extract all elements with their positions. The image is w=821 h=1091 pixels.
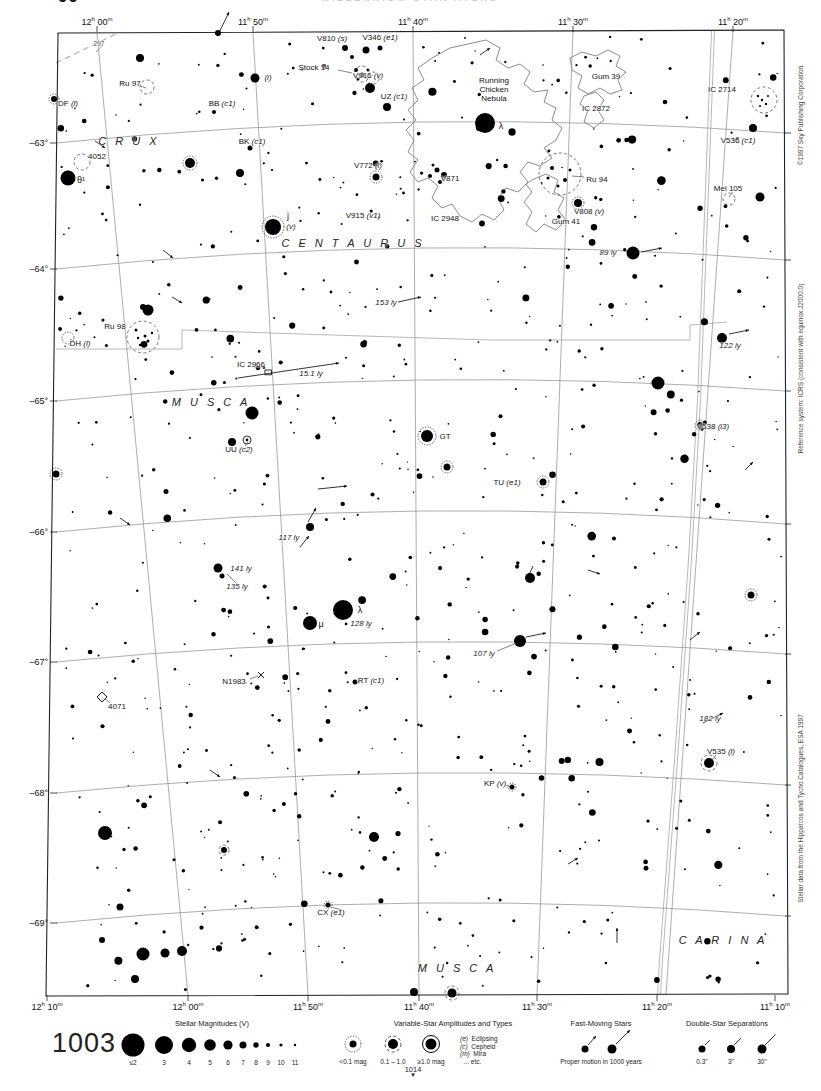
down-arrow-icon: ▼ bbox=[405, 1074, 422, 1077]
object-label: 89 ly bbox=[600, 249, 617, 257]
circled-dot-center bbox=[246, 439, 249, 442]
star bbox=[574, 199, 582, 207]
object-label: UU (c2) bbox=[225, 446, 253, 454]
legend-magnitude-label: 5 bbox=[208, 1059, 212, 1066]
legend-separation-label: 30" bbox=[757, 1058, 767, 1065]
nebula-name-line: Chicken bbox=[480, 86, 509, 94]
dec-gridline bbox=[56, 248, 786, 269]
ra-label-bottom: 11h 20m bbox=[642, 1001, 672, 1012]
label-leader-line bbox=[497, 643, 517, 651]
object-label: DH (l) bbox=[70, 340, 91, 348]
legend-magnitude-dot bbox=[294, 1044, 296, 1046]
legend-magnitude-dot bbox=[279, 1043, 282, 1046]
object-label: Stock 14 bbox=[298, 64, 329, 72]
star bbox=[303, 616, 317, 630]
object-label: RT (c1) bbox=[358, 677, 384, 685]
legend-separation-label: 3" bbox=[728, 1058, 734, 1065]
object-label: KP (v) bbox=[484, 780, 506, 788]
object-label: 117 ly bbox=[279, 534, 300, 542]
object-label: Ru 98 bbox=[104, 323, 125, 331]
legend-fast-dot bbox=[582, 1046, 589, 1053]
dec-label: –67° bbox=[14, 657, 48, 667]
proper-motion-arrow bbox=[398, 297, 421, 302]
star bbox=[757, 95, 759, 97]
dec-label: –66° bbox=[14, 527, 48, 537]
arrowhead bbox=[217, 774, 220, 777]
constellation-name: C E N T A U R U S bbox=[281, 237, 424, 249]
object-label: Gum 41 bbox=[552, 218, 580, 226]
object-label: 4071 bbox=[108, 703, 126, 711]
arrowhead bbox=[487, 48, 490, 51]
star bbox=[410, 988, 418, 996]
legend-magnitude-dot bbox=[204, 1039, 216, 1051]
running-head: MILLENNIUM STAR ATLAS bbox=[321, 0, 498, 3]
object-label: V808 (v) bbox=[574, 208, 604, 216]
constellation-name: M U S C A bbox=[172, 396, 251, 408]
arrowhead bbox=[597, 572, 600, 575]
object-label: 141 ly bbox=[230, 565, 251, 573]
dec-gridline bbox=[56, 122, 786, 143]
arrowhead bbox=[127, 522, 130, 525]
star bbox=[767, 95, 769, 97]
dec-label: –69° bbox=[14, 918, 48, 928]
star bbox=[448, 989, 457, 998]
legend-variable-label: ≥1.0 mag bbox=[417, 1058, 444, 1065]
legend-double-title: Double-Star Separations bbox=[686, 1019, 768, 1028]
star bbox=[749, 124, 757, 132]
ra-label-top: 11h 50m bbox=[238, 16, 268, 27]
legend-magnitude-label: 9 bbox=[266, 1059, 270, 1066]
star bbox=[137, 337, 139, 339]
constellation-name: C R U X bbox=[98, 135, 159, 147]
star bbox=[99, 937, 105, 943]
star bbox=[475, 113, 495, 133]
object-label: V915 (v1) bbox=[346, 212, 381, 220]
star-atlas-page: 99 MILLENNIUM STAR ATLAS 12h 00m11h 50m1… bbox=[0, 0, 821, 1091]
star bbox=[432, 164, 435, 167]
object-label: 182 ly bbox=[699, 715, 720, 723]
star bbox=[761, 99, 763, 101]
star bbox=[144, 335, 147, 338]
dec-label: –68° bbox=[14, 788, 48, 798]
star bbox=[131, 975, 139, 983]
star bbox=[365, 83, 375, 93]
star bbox=[421, 430, 433, 442]
object-label: N1983 bbox=[222, 678, 246, 686]
star bbox=[652, 377, 665, 390]
star bbox=[53, 471, 60, 478]
object-label: 135 ly bbox=[226, 583, 247, 591]
dec-gridline bbox=[56, 903, 786, 923]
object-label: θ¹ bbox=[77, 176, 85, 185]
legend-var-dot bbox=[388, 1039, 398, 1049]
star bbox=[326, 903, 331, 908]
ra-label-top: 12h 00m bbox=[82, 16, 113, 27]
star bbox=[550, 166, 554, 170]
constellation-name: M U S C A bbox=[418, 962, 497, 974]
object-label: j bbox=[287, 212, 289, 221]
object-label: IC 2872 bbox=[582, 105, 610, 113]
object-label: Ru 97 bbox=[119, 80, 140, 88]
star bbox=[353, 680, 358, 685]
ra-label-top: 11h 20m bbox=[718, 16, 748, 27]
object-label: V810 (s) bbox=[317, 35, 347, 43]
object-label: λ bbox=[499, 122, 504, 131]
star bbox=[51, 96, 57, 102]
star bbox=[627, 247, 640, 260]
label-leader-line bbox=[572, 176, 584, 177]
object-label: IC 2948 bbox=[431, 215, 459, 223]
proper-motion-arrow bbox=[318, 486, 347, 489]
star bbox=[540, 479, 547, 486]
legend-magnitude-label: 8 bbox=[254, 1059, 258, 1066]
legend-magnitude-dot bbox=[182, 1038, 196, 1052]
constellation-boundary-double bbox=[661, 30, 715, 995]
object-label: 122 ly bbox=[719, 342, 740, 350]
object-label: Ru 94 bbox=[586, 176, 607, 184]
ra-label-top: 11h 30m bbox=[558, 16, 588, 27]
constellation-name: C A R I N A bbox=[679, 934, 768, 946]
ra-gridline bbox=[253, 32, 308, 995]
dec-gridline bbox=[56, 380, 786, 401]
legend-separation-dot bbox=[699, 1046, 706, 1053]
object-label: 107 ly bbox=[473, 650, 494, 658]
object-label: DF (l) bbox=[58, 100, 78, 108]
constellation-boundary-double bbox=[658, 30, 712, 995]
legend-magnitude-dot bbox=[253, 1042, 258, 1047]
